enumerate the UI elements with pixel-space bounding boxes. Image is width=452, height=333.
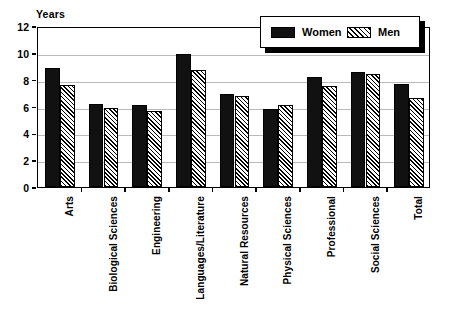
x-axis-tick (212, 188, 214, 192)
bar-men (322, 86, 337, 187)
x-axis-label: Arts (64, 196, 75, 216)
x-axis-label: Biological Sciences (108, 196, 119, 292)
y-axis-tick-label: 8 (3, 76, 29, 87)
x-axis-tick (299, 188, 301, 192)
solid-swatch-icon (271, 27, 295, 38)
y-axis-tick-label: 12 (3, 22, 29, 33)
bar-chart-figure: Years 024681012 ArtsBiological SciencesE… (0, 0, 452, 333)
bar-men (191, 70, 206, 187)
y-axis-tick (32, 26, 36, 28)
y-axis-tick (32, 134, 36, 136)
y-axis-tick (32, 80, 36, 82)
legend-label-women: Women (302, 27, 342, 38)
bar-women (132, 105, 147, 187)
chart-legend: Women Men (260, 16, 420, 48)
x-axis-tick (124, 188, 126, 192)
bar-women (220, 94, 235, 187)
x-axis-tick (343, 188, 345, 192)
legend-item-women: Women (271, 24, 342, 40)
y-axis-tick (32, 53, 36, 55)
y-axis-tick-label: 6 (3, 103, 29, 114)
legend-item-men: Men (347, 24, 400, 40)
x-axis-label: Professional (326, 196, 337, 257)
bar-women (307, 77, 322, 187)
bar-men (366, 74, 381, 187)
bar-women (394, 84, 409, 187)
bar-women (176, 54, 191, 187)
x-axis-label: Total (413, 196, 424, 220)
legend-label-men: Men (378, 27, 400, 38)
bar-men (409, 98, 424, 187)
bar-women (351, 72, 366, 187)
y-axis-tick (32, 107, 36, 109)
bar-women (89, 104, 104, 187)
x-axis-label: Languages/Literature (195, 196, 206, 300)
y-axis-tick-label: 10 (3, 49, 29, 60)
y-axis-tick (32, 160, 36, 162)
y-axis-title: Years (36, 8, 65, 20)
hatched-swatch-icon (347, 27, 371, 38)
bar-men (104, 108, 119, 187)
x-axis-label: Social Sciences (370, 196, 381, 273)
y-axis-tick-label: 0 (3, 183, 29, 194)
y-axis-tick-label: 4 (3, 129, 29, 140)
bar-women (45, 68, 60, 187)
bar-women (263, 109, 278, 187)
y-axis-tick (32, 187, 36, 189)
x-axis-tick (255, 188, 257, 192)
x-axis-label: Engineering (151, 196, 162, 255)
y-axis-tick-label: 2 (3, 156, 29, 167)
gridline (38, 55, 429, 56)
bar-men (235, 96, 250, 187)
x-axis-tick (386, 188, 388, 192)
x-axis-label: Natural Resources (239, 196, 250, 286)
x-axis-label: Physical Sciences (282, 196, 293, 284)
bar-men (147, 111, 162, 187)
x-axis-tick (168, 188, 170, 192)
bar-men (278, 105, 293, 187)
x-axis-tick (81, 188, 83, 192)
bar-men (60, 85, 75, 187)
